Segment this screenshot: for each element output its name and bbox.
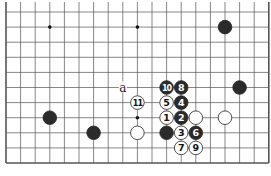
star-point-icon — [136, 25, 140, 29]
white-stone — [218, 111, 232, 125]
white-stone-7: 7 — [174, 141, 188, 155]
black-stone-6: 6 — [189, 126, 203, 140]
white-stone-1: 1 — [160, 111, 174, 125]
svg-text:2: 2 — [178, 112, 185, 123]
black-stone-8: 8 — [174, 81, 188, 95]
black-stone-2: 2 — [174, 111, 188, 125]
black-stone — [233, 81, 247, 95]
svg-text:7: 7 — [178, 142, 185, 153]
svg-text:1: 1 — [163, 112, 170, 123]
white-stone — [189, 111, 203, 125]
black-stone — [87, 126, 101, 140]
svg-text:4: 4 — [178, 97, 185, 108]
white-stone-9: 9 — [189, 141, 203, 155]
white-stone — [131, 126, 145, 140]
black-stone-4: 4 — [174, 96, 188, 110]
svg-text:11: 11 — [133, 99, 144, 108]
star-point-icon — [136, 116, 140, 120]
black-stone — [43, 111, 57, 125]
svg-text:5: 5 — [163, 97, 170, 108]
go-board: 1234567891011 a — [0, 0, 271, 176]
white-stone-3: 3 — [174, 126, 188, 140]
svg-text:3: 3 — [178, 127, 185, 138]
svg-text:9: 9 — [192, 142, 199, 153]
svg-text:8: 8 — [178, 82, 185, 93]
black-stone-10: 10 — [160, 81, 174, 95]
black-stone — [160, 126, 174, 140]
white-stone-5: 5 — [160, 96, 174, 110]
star-point-icon — [48, 25, 52, 29]
point-label-a: a — [119, 81, 126, 95]
svg-text:10: 10 — [162, 84, 173, 93]
svg-text:6: 6 — [192, 127, 199, 138]
black-stone — [218, 20, 232, 34]
marks: a — [119, 81, 127, 95]
white-stone-11: 11 — [131, 96, 145, 110]
